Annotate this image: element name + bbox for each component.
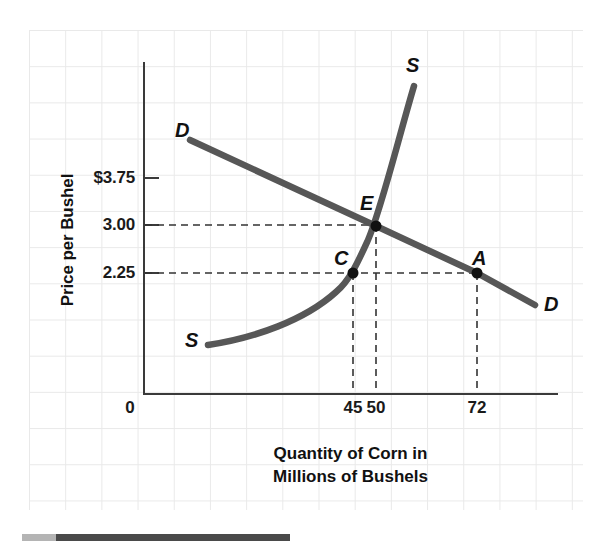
point-label-a: A: [472, 248, 486, 268]
point-marker-c: [348, 268, 359, 279]
supply-curve-label-end: S: [406, 55, 419, 75]
point-label-c: C: [334, 248, 348, 268]
chart-screenshot: $3.75 3.00 2.25 0 45 50 72 Price per Bus…: [0, 0, 602, 544]
demand-curve-label-start: D: [175, 120, 189, 140]
bottom-bar: [22, 534, 290, 541]
bottom-bar-light-segment: [22, 534, 56, 541]
point-marker-a: [472, 268, 483, 279]
point-marker-e: [371, 221, 382, 232]
supply-curve: [208, 86, 414, 345]
curves-layer: [0, 0, 602, 544]
demand-curve-label-end: D: [544, 294, 558, 314]
bottom-bar-dark-segment: [56, 534, 290, 541]
plot-area: $3.75 3.00 2.25 0 45 50 72 Price per Bus…: [0, 0, 602, 544]
point-label-e: E: [360, 193, 373, 213]
supply-curve-label-start: S: [185, 330, 198, 350]
demand-curve: [190, 140, 535, 305]
